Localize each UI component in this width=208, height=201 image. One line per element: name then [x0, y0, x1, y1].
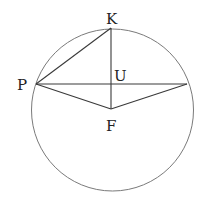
label-u: U: [114, 67, 127, 85]
segment-F-right: [111, 84, 187, 109]
circle: [32, 29, 194, 191]
label-f: F: [106, 117, 116, 135]
label-k: K: [106, 10, 118, 28]
segment-PK: [36, 28, 111, 84]
label-p: P: [17, 76, 27, 94]
segment-PF: [36, 84, 111, 109]
geometry-diagram: K P U F: [0, 0, 208, 201]
